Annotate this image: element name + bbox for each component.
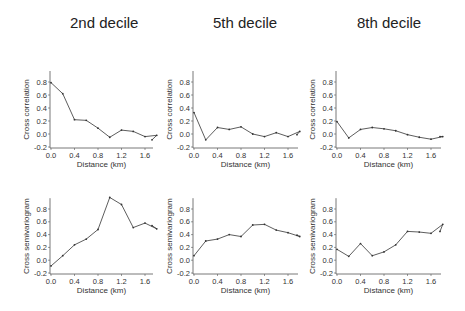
data-point	[299, 236, 301, 238]
data-point	[296, 234, 298, 236]
data-point	[442, 136, 444, 138]
x-tick-label: 1.2	[402, 277, 412, 286]
data-point	[240, 126, 242, 128]
data-line	[51, 197, 157, 265]
data-point	[151, 139, 153, 141]
x-axis-label: Distance (km)	[364, 160, 414, 169]
data-line	[337, 224, 443, 256]
data-point	[97, 229, 99, 231]
y-tick-label: 0.2	[180, 243, 190, 252]
y-tick-label: 0.6	[180, 217, 190, 226]
data-point	[205, 139, 207, 141]
x-axis-label: Distance (km)	[77, 160, 127, 169]
y-tick-label: 0.6	[37, 91, 47, 100]
data-point	[395, 244, 397, 246]
y-tick-label: 0.8	[37, 205, 47, 214]
x-tick-label: 0.8	[379, 151, 389, 160]
data-point	[217, 238, 219, 240]
data-line	[194, 224, 300, 255]
data-point	[430, 138, 432, 140]
data-point	[85, 119, 87, 121]
y-tick-label: 0.2	[180, 117, 190, 126]
x-tick-label: 1.2	[259, 151, 269, 160]
y-axis-label: Cross correlation	[165, 79, 174, 139]
data-point	[264, 223, 266, 225]
panel-bottom-center: -0.20.00.20.40.60.80.00.40.81.21.6Distan…	[165, 198, 301, 295]
data-point	[85, 238, 87, 240]
data-point	[407, 231, 409, 233]
data-point	[156, 134, 158, 136]
y-axis-label: Cross semivariogram	[165, 198, 174, 274]
x-tick-label: 0.0	[332, 277, 342, 286]
x-tick-label: 0.8	[93, 151, 103, 160]
y-tick-label: 0.0	[180, 256, 190, 265]
y-tick-label: 0.0	[37, 256, 47, 265]
data-point	[430, 232, 432, 234]
data-point	[193, 112, 195, 114]
y-tick-label: 0.8	[180, 78, 190, 87]
x-tick-label: 0.4	[355, 151, 365, 160]
data-point	[275, 229, 277, 231]
data-point	[193, 255, 195, 257]
y-tick-label: 0.4	[37, 104, 47, 113]
x-tick-label: 0.0	[46, 151, 56, 160]
data-point	[97, 127, 99, 129]
data-point	[252, 133, 254, 135]
data-point	[371, 127, 373, 129]
x-tick-label: 0.4	[212, 277, 222, 286]
x-tick-label: 0.8	[236, 151, 246, 160]
y-tick-label: 0.0	[180, 130, 190, 139]
x-tick-label: 0.0	[189, 151, 199, 160]
data-point	[275, 132, 277, 134]
data-point	[228, 234, 230, 236]
data-point	[287, 232, 289, 234]
y-tick-label: 0.4	[323, 230, 333, 239]
data-point	[240, 236, 242, 238]
x-axis-label: Distance (km)	[221, 160, 271, 169]
data-point	[228, 129, 230, 131]
y-tick-label: 0.4	[37, 230, 47, 239]
y-tick-label: 0.2	[323, 243, 333, 252]
y-tick-label: 0.4	[180, 104, 190, 113]
data-point	[299, 131, 301, 133]
data-line	[194, 113, 300, 140]
data-point	[109, 197, 111, 199]
panel-bottom-left: -0.20.00.20.40.60.80.00.40.81.21.6Distan…	[22, 197, 158, 295]
y-tick-label: 0.6	[37, 217, 47, 226]
x-tick-label: 1.6	[283, 277, 293, 286]
y-tick-label: 0.8	[323, 205, 333, 214]
data-point	[442, 223, 444, 225]
y-tick-label: 0.8	[323, 78, 333, 87]
y-tick-label: 0.8	[37, 78, 47, 87]
y-axis-label: Cross correlation	[22, 79, 31, 139]
data-point	[383, 128, 385, 130]
y-tick-label: 0.2	[37, 243, 47, 252]
data-point	[360, 243, 362, 245]
x-tick-label: 1.6	[426, 277, 436, 286]
data-point	[144, 136, 146, 138]
y-tick-label: 0.2	[323, 117, 333, 126]
data-point	[74, 244, 76, 246]
x-tick-label: 0.0	[332, 151, 342, 160]
data-point	[348, 137, 350, 139]
panel-bottom-right: -0.20.00.20.40.60.80.00.40.81.21.6Distan…	[308, 198, 444, 295]
data-point	[407, 134, 409, 136]
y-tick-label: 0.6	[180, 91, 190, 100]
data-point	[336, 121, 338, 123]
x-tick-label: 0.0	[46, 277, 56, 286]
data-point	[336, 248, 338, 250]
y-axis-label: Cross semivariogram	[22, 198, 31, 274]
data-point	[205, 240, 207, 242]
x-tick-label: 0.8	[93, 277, 103, 286]
data-point	[252, 224, 254, 226]
data-point	[121, 129, 123, 131]
x-tick-label: 1.2	[116, 277, 126, 286]
data-line	[337, 122, 443, 140]
data-point	[132, 227, 134, 229]
panel-top-right: -0.20.00.20.40.60.80.00.40.81.21.6Distan…	[308, 71, 444, 169]
data-point	[439, 136, 441, 138]
y-axis-label: Cross correlation	[308, 79, 317, 139]
x-axis-label: Distance (km)	[364, 286, 414, 295]
data-point	[371, 255, 373, 257]
data-point	[156, 228, 158, 230]
